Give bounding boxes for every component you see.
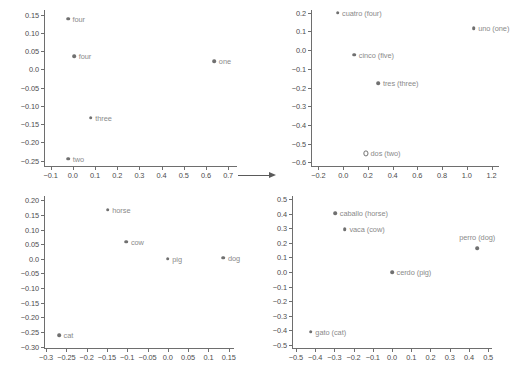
x-tick (188, 349, 189, 352)
y-tick-label: −0.3 (292, 102, 306, 111)
y-tick (289, 287, 292, 288)
x-tick (229, 349, 230, 352)
x-tick-label: 1.2 (487, 171, 497, 180)
data-point (222, 256, 226, 260)
x-tick-label: 0.05 (181, 353, 195, 362)
y-tick (308, 50, 311, 51)
data-point-label: tres (three) (383, 79, 419, 88)
y-tick-label: −0.6 (292, 158, 306, 167)
y-tick-label: 0.15 (25, 211, 39, 220)
data-point-label: four (72, 14, 85, 23)
y-tick (289, 228, 292, 229)
plot-spanish-animals: −0.5−0.4−0.3−0.2−0.10.00.10.20.30.40.50.… (292, 196, 492, 348)
y-tick (289, 257, 292, 258)
x-tick (373, 349, 374, 352)
y-tick-label: 0.0 (296, 46, 306, 55)
y-tick (41, 244, 44, 245)
x-tick (411, 349, 412, 352)
y-tick (289, 330, 292, 331)
y-tick (41, 88, 44, 89)
y-tick (41, 200, 44, 201)
data-point (89, 116, 93, 120)
y-tick (308, 69, 311, 70)
data-point (390, 270, 394, 274)
y-tick (308, 125, 311, 126)
y-tick-label: −0.15 (21, 120, 39, 129)
y-tick-label: 0.10 (25, 225, 39, 234)
x-tick (467, 167, 468, 170)
x-tick-label: 1.0 (462, 171, 472, 180)
y-tick (41, 303, 44, 304)
y-tick-label: 0.10 (25, 28, 39, 37)
y-tick (41, 347, 44, 348)
y-tick-label: 0.20 (25, 196, 39, 205)
plot-area: −0.5−0.4−0.3−0.2−0.10.00.10.20.30.40.50.… (292, 196, 492, 348)
x-axis-line (44, 348, 234, 349)
x-tick-label: 0.1 (203, 353, 213, 362)
plot-area: −0.3−0.25−0.2−0.15−0.1−0.050.00.050.10.1… (44, 196, 234, 348)
y-tick (308, 31, 311, 32)
x-tick-label: −0.2 (311, 171, 325, 180)
data-point (57, 333, 61, 337)
y-tick (308, 13, 311, 14)
x-tick-label: −0.5 (289, 353, 303, 362)
y-tick (41, 273, 44, 274)
y-tick (41, 317, 44, 318)
data-point-label: vaca (cow) (349, 225, 384, 234)
x-tick (392, 349, 393, 352)
x-tick (488, 349, 489, 352)
x-tick-label: −0.1 (366, 353, 380, 362)
data-point (363, 151, 368, 156)
y-tick-label: −0.25 (21, 156, 39, 165)
data-point (352, 53, 356, 57)
y-tick-label: 0.0 (277, 268, 287, 277)
x-tick-label: 0.6 (201, 171, 211, 180)
y-tick (41, 142, 44, 143)
y-tick (289, 243, 292, 244)
y-tick-label: 0.3 (277, 224, 287, 233)
data-point-label: cuatro (four) (342, 8, 382, 17)
data-point-label: cow (131, 237, 144, 246)
x-tick-label: 0.4 (388, 171, 398, 180)
x-tick-label: 0.2 (363, 171, 373, 180)
x-tick (127, 349, 128, 352)
y-tick-label: −0.5 (273, 341, 287, 350)
data-point-label: pig (172, 254, 182, 263)
y-tick-label: −0.05 (21, 83, 39, 92)
y-tick (41, 106, 44, 107)
x-tick-label: 0.5 (179, 171, 189, 180)
y-tick (289, 272, 292, 273)
y-tick-label: −0.2 (292, 83, 306, 92)
y-tick (289, 345, 292, 346)
data-point-label: cinco (five) (359, 50, 394, 59)
x-tick-label: 0.2 (425, 353, 435, 362)
y-tick-label: 0.05 (25, 47, 39, 56)
y-tick (41, 332, 44, 333)
x-tick-label: 0.15 (222, 353, 236, 362)
x-tick (393, 167, 394, 170)
data-point-label: dos (two) (371, 149, 401, 158)
data-point-label: two (73, 154, 84, 163)
y-axis-line (44, 196, 45, 348)
y-tick-label: 0.0 (29, 254, 39, 263)
y-tick-label: 0.5 (277, 194, 287, 203)
data-point (472, 26, 476, 30)
data-point-label: gato (cat) (315, 327, 346, 336)
y-tick-label: 0.15 (25, 10, 39, 19)
x-tick (206, 167, 207, 170)
data-point (475, 246, 479, 250)
x-tick-label: 0.7 (223, 171, 233, 180)
x-tick (492, 167, 493, 170)
x-tick-label: 0.0 (338, 171, 348, 180)
x-tick (46, 349, 47, 352)
y-tick-label: 0.1 (296, 27, 306, 36)
x-tick (117, 167, 118, 170)
y-axis-line (311, 10, 312, 166)
x-tick-label: 0.3 (445, 353, 455, 362)
data-point-label: one (219, 57, 231, 66)
y-tick (289, 214, 292, 215)
data-point (333, 211, 337, 215)
x-tick (228, 167, 229, 170)
scatter-figure: −0.10.00.10.20.30.40.50.60.70.150.100.05… (0, 0, 518, 373)
y-tick (308, 162, 311, 163)
